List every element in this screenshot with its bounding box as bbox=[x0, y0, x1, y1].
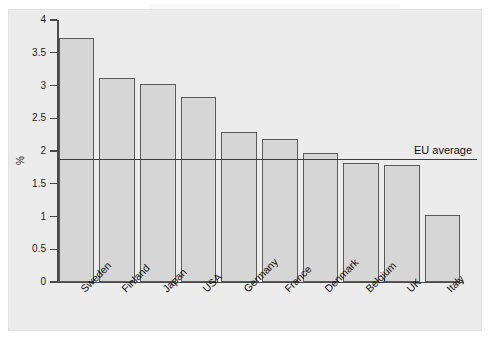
bar bbox=[303, 153, 339, 282]
eu-average-line bbox=[57, 159, 477, 161]
y-tick-label: 4 bbox=[40, 15, 46, 25]
y-tick-label: 2 bbox=[40, 146, 46, 156]
y-tick bbox=[50, 85, 57, 86]
y-tick-label: 3.5 bbox=[32, 48, 46, 58]
chart-figure: % 00.511.522.533.54 EU average SwedenFin… bbox=[0, 0, 490, 340]
y-axis-title: % bbox=[15, 156, 26, 165]
y-tick bbox=[50, 281, 57, 282]
y-tick-label: 3 bbox=[40, 81, 46, 91]
y-tick bbox=[50, 249, 57, 250]
y-tick-label: 1 bbox=[40, 212, 46, 222]
bar bbox=[140, 84, 176, 282]
y-tick bbox=[50, 19, 57, 20]
bar-series bbox=[57, 20, 464, 282]
y-tick-label: 0 bbox=[40, 277, 46, 287]
y-tick bbox=[50, 183, 57, 184]
x-axis-category-labels: SwedenFinlandJapanUSAGermanyFranceDenmar… bbox=[57, 286, 464, 338]
y-tick-label: 0.5 bbox=[32, 244, 46, 254]
y-tick bbox=[50, 216, 57, 217]
bar bbox=[425, 215, 461, 282]
eu-average-label: EU average bbox=[414, 144, 472, 156]
bar bbox=[181, 97, 217, 282]
y-tick bbox=[50, 150, 57, 151]
y-tick bbox=[50, 118, 57, 119]
y-tick-label: 1.5 bbox=[32, 179, 46, 189]
bar bbox=[221, 132, 257, 282]
y-tick-label: 2.5 bbox=[32, 113, 46, 123]
bar bbox=[99, 78, 135, 282]
y-tick bbox=[50, 52, 57, 53]
